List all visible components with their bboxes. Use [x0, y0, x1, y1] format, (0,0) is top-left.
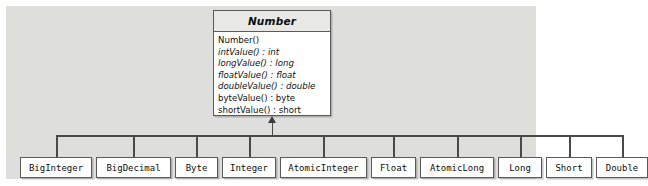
class-name-label: AtomicInteger — [288, 163, 358, 173]
drop-line — [56, 135, 58, 157]
class-name-label: Double — [606, 163, 639, 173]
member-row: Number() — [218, 35, 330, 47]
class-name-label: Long — [509, 163, 531, 173]
class-name-label: Integer — [230, 163, 268, 173]
member-row: shortValue() : short — [218, 105, 330, 117]
drop-line — [569, 135, 571, 157]
class-box-atomiclong[interactable]: AtomicLong — [420, 157, 494, 178]
generalization-bus — [56, 135, 622, 137]
class-box-float[interactable]: Float — [371, 157, 416, 178]
class-name-label: Number — [248, 15, 296, 27]
drop-line — [622, 135, 624, 157]
class-box-bigdecimal[interactable]: BigDecimal — [96, 157, 171, 178]
class-box-short[interactable]: Short — [546, 157, 592, 178]
member-row: byteValue() : byte — [218, 93, 330, 105]
diagram-canvas: Number Number() intValue() : int longVal… — [6, 6, 536, 179]
class-box-biginteger[interactable]: BigInteger — [20, 157, 92, 178]
class-name-label: Float — [380, 163, 407, 173]
class-name-label: BigDecimal — [106, 163, 160, 173]
class-header: Number — [214, 11, 330, 32]
drop-line — [249, 135, 251, 157]
drop-line — [457, 135, 459, 157]
class-box-integer[interactable]: Integer — [222, 157, 276, 178]
class-box-long[interactable]: Long — [498, 157, 542, 178]
class-name-label: BigInteger — [29, 163, 83, 173]
drop-line — [393, 135, 395, 157]
drop-line — [323, 135, 325, 157]
generalization-stem — [272, 122, 274, 136]
class-box-atomicinteger[interactable]: AtomicInteger — [280, 157, 367, 178]
class-box-number[interactable]: Number Number() intValue() : int longVal… — [213, 10, 331, 116]
drop-line — [196, 135, 198, 157]
class-name-label: AtomicLong — [430, 163, 484, 173]
class-box-double[interactable]: Double — [596, 157, 648, 178]
drop-line — [520, 135, 522, 157]
class-name-label: Byte — [186, 163, 208, 173]
member-row: intValue() : int — [218, 47, 330, 59]
drop-line — [133, 135, 135, 157]
member-row: floatValue() : float — [218, 70, 330, 82]
class-name-label: Short — [555, 163, 582, 173]
class-box-byte[interactable]: Byte — [175, 157, 218, 178]
class-members-compartment: Number() intValue() : int longValue() : … — [214, 32, 330, 118]
member-row: longValue() : long — [218, 58, 330, 70]
member-row: doubleValue() : double — [218, 81, 330, 93]
